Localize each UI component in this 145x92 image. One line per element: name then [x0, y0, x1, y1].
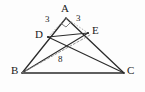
- vertex-dot-e: [87, 32, 89, 34]
- segment-eb: [22, 33, 88, 73]
- vertex-dot-d: [47, 36, 49, 38]
- geometry-canvas: [0, 0, 145, 92]
- vertex-label-d: D: [35, 29, 43, 40]
- vertex-label-e: E: [92, 25, 99, 36]
- vertex-label-a: A: [61, 3, 69, 14]
- measure-label-be: 8: [58, 55, 63, 64]
- segment-da-dashed: [48, 18, 66, 37]
- vertex-label-b: B: [11, 65, 18, 76]
- geometry-figure: A B C D E 3 3 8: [0, 0, 145, 92]
- measure-label-ae: 3: [76, 14, 81, 23]
- segment-ab: [22, 18, 66, 73]
- measure-label-ad: 3: [45, 15, 50, 24]
- vertex-label-c: C: [127, 65, 134, 76]
